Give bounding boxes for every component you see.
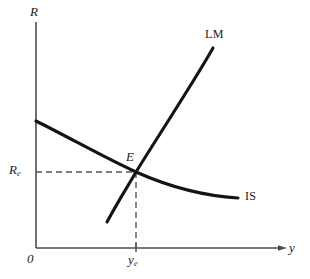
- equilibrium-point-label: E: [126, 150, 134, 163]
- y-axis-label: R: [30, 5, 38, 18]
- figure-canvas: [0, 0, 310, 279]
- is-curve-label: IS: [245, 190, 256, 202]
- is-curve: [36, 121, 238, 198]
- equilibrium-income-subscript: e: [134, 259, 138, 268]
- lm-curve-label: LM: [205, 28, 224, 40]
- equilibrium-rate-label: Re: [9, 163, 21, 176]
- lm-curve: [107, 48, 213, 222]
- x-axis-arrowhead: [278, 245, 287, 251]
- is-lm-figure: R y 0 Re ye E LM IS: [0, 0, 310, 279]
- equilibrium-rate-subscript: e: [17, 169, 21, 178]
- origin-label: 0: [27, 252, 34, 265]
- equilibrium-income-base: y: [128, 252, 134, 267]
- equilibrium-rate-base: R: [9, 162, 17, 177]
- equilibrium-income-label: ye: [128, 253, 137, 266]
- x-axis-label: y: [289, 241, 295, 254]
